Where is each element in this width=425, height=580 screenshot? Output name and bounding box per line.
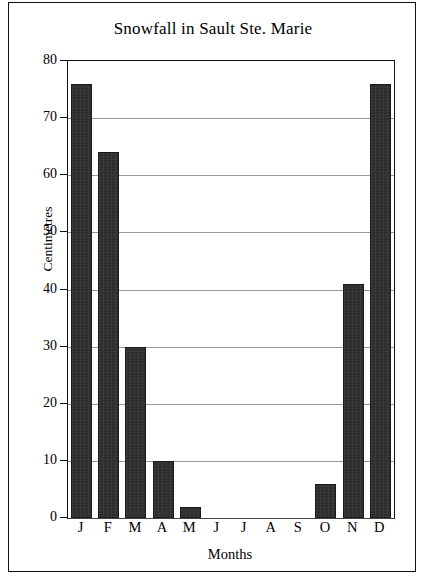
y-tick-label: 80 bbox=[43, 53, 57, 67]
bars-layer bbox=[68, 61, 394, 518]
y-tick-label: 40 bbox=[43, 282, 57, 296]
x-tick-label: O bbox=[311, 519, 338, 536]
y-axis: 01020304050607080 bbox=[9, 3, 67, 571]
x-tick-label: F bbox=[94, 519, 121, 536]
chart-title: Snowfall in Sault Ste. Marie bbox=[9, 19, 417, 39]
figure-frame: Snowfall in Sault Ste. Marie 01020304050… bbox=[8, 2, 416, 572]
bar[interactable] bbox=[343, 284, 364, 518]
x-tick-label: M bbox=[176, 519, 203, 536]
bar-slot bbox=[231, 61, 258, 518]
y-tick-70 bbox=[60, 117, 67, 118]
y-tick-40 bbox=[60, 289, 67, 290]
x-tick-label: J bbox=[230, 519, 257, 536]
plot-area bbox=[67, 60, 395, 519]
y-tick-20 bbox=[60, 403, 67, 404]
y-tick-30 bbox=[60, 346, 67, 347]
bar-slot bbox=[367, 61, 394, 518]
bar[interactable] bbox=[153, 461, 174, 518]
bar[interactable] bbox=[125, 347, 146, 518]
y-tick-label: 70 bbox=[43, 110, 57, 124]
y-tick-10 bbox=[60, 460, 67, 461]
bar-slot bbox=[204, 61, 231, 518]
x-tick-label: A bbox=[257, 519, 284, 536]
x-tick-label: J bbox=[67, 519, 94, 536]
bar[interactable] bbox=[71, 84, 92, 518]
bar[interactable] bbox=[98, 152, 119, 518]
y-tick-label: 10 bbox=[43, 453, 57, 467]
bar-slot bbox=[258, 61, 285, 518]
x-tick-label: J bbox=[203, 519, 230, 536]
bar-slot bbox=[150, 61, 177, 518]
y-axis-title: Centimetres bbox=[40, 206, 56, 271]
y-tick-label: 60 bbox=[43, 167, 57, 181]
x-axis: JFMAMJJASOND bbox=[67, 519, 393, 536]
bar-slot bbox=[95, 61, 122, 518]
bar-slot bbox=[340, 61, 367, 518]
y-tick-60 bbox=[60, 174, 67, 175]
y-tick-50 bbox=[60, 231, 67, 232]
bar[interactable] bbox=[180, 507, 201, 518]
y-tick-label: 20 bbox=[43, 396, 57, 410]
x-tick-label: A bbox=[149, 519, 176, 536]
y-tick-label: 0 bbox=[50, 510, 57, 524]
bar-slot bbox=[312, 61, 339, 518]
x-tick-label: M bbox=[121, 519, 148, 536]
bar-slot bbox=[68, 61, 95, 518]
bar-slot bbox=[285, 61, 312, 518]
y-tick-0 bbox=[60, 517, 67, 518]
bar-slot bbox=[177, 61, 204, 518]
bar[interactable] bbox=[370, 84, 391, 518]
x-tick-label: S bbox=[284, 519, 311, 536]
x-axis-title: Months bbox=[67, 546, 393, 563]
x-tick-label: D bbox=[366, 519, 393, 536]
x-tick-label: N bbox=[339, 519, 366, 536]
y-tick-label: 30 bbox=[43, 339, 57, 353]
y-tick-80 bbox=[60, 60, 67, 61]
bar[interactable] bbox=[315, 484, 336, 518]
bar-slot bbox=[122, 61, 149, 518]
